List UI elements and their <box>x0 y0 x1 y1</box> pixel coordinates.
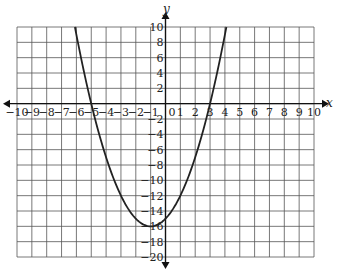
x-tick-label: 6 <box>251 106 258 119</box>
x-tick-label: 8 <box>281 106 288 119</box>
x-tick-label: 4 <box>221 106 228 119</box>
x-tick-label: 7 <box>266 106 273 119</box>
y-tick-label: −4 <box>147 128 163 141</box>
y-tick-label: −2 <box>147 113 163 126</box>
x-tick-label: −8 <box>39 106 55 119</box>
y-tick-label: −20 <box>140 251 163 264</box>
y-tick-label: 2 <box>157 82 164 95</box>
y-tick-label: 8 <box>157 36 164 49</box>
x-tick-label: 10 <box>307 106 321 119</box>
x-tick-label: 0 <box>169 106 176 119</box>
parabola-chart: −10−9−8−7−6−5−4−3−2−1012345678910108642−… <box>0 0 337 270</box>
x-tick-label: 5 <box>236 106 243 119</box>
x-tick-label: −5 <box>83 106 99 119</box>
y-tick-label: −6 <box>147 144 163 157</box>
y-tick-label: 4 <box>157 67 164 80</box>
y-tick-label: −18 <box>140 236 163 249</box>
x-tick-label: −7 <box>53 106 69 119</box>
x-tick-label: −6 <box>68 106 84 119</box>
x-tick-label: 1 <box>177 106 184 119</box>
x-tick-label: −4 <box>98 106 114 119</box>
x-axis-label: x <box>326 96 333 110</box>
x-tick-label: 9 <box>296 106 303 119</box>
y-tick-label: −10 <box>140 174 163 187</box>
y-tick-label: −14 <box>140 205 163 218</box>
y-axis-label: y <box>162 2 170 16</box>
y-tick-label: 6 <box>157 52 164 65</box>
x-tick-label: −9 <box>24 106 40 119</box>
y-tick-label: 10 <box>150 21 164 34</box>
x-tick-label: −2 <box>128 106 144 119</box>
axes <box>3 12 329 269</box>
x-tick-label: 2 <box>192 106 199 119</box>
y-tick-label: −8 <box>147 159 163 172</box>
x-tick-label: −3 <box>113 106 129 119</box>
y-tick-label: −12 <box>140 190 163 203</box>
